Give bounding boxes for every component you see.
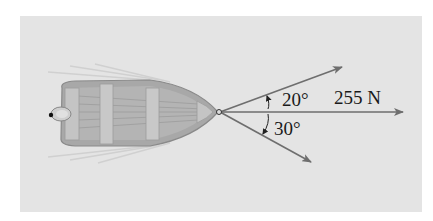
- force-arrows: [220, 67, 403, 162]
- force-magnitude-label: 255 N: [334, 87, 381, 108]
- upper-angle-label: 20°: [282, 89, 309, 110]
- angle-arcs: [263, 96, 269, 134]
- attachment-point: [217, 110, 222, 115]
- boat-force-diagram: 20° 30° 255 N: [0, 0, 433, 221]
- lower-angle-label: 30°: [274, 118, 301, 139]
- boat-icon: [49, 80, 218, 146]
- upper-rope-arrow: [220, 67, 342, 112]
